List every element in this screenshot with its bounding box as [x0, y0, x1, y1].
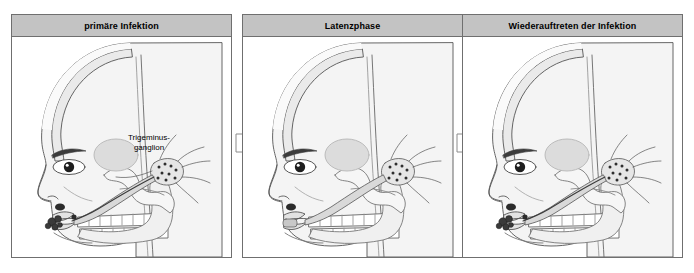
- head-diagram-latency: [243, 37, 462, 257]
- ganglion-label-line-1: Trigeminus-: [116, 133, 182, 143]
- eye-pupil: [515, 162, 525, 172]
- orbital-cavity: [545, 139, 589, 171]
- panel-recurrent-infection: Wiederauftreten der Infektion: [462, 14, 683, 258]
- ganglion-label-line-2: ganglion: [116, 143, 182, 153]
- panel-title-latency-phase: Latenzphase: [325, 21, 381, 31]
- panel-title-primary-infection: primäre Infektion: [84, 21, 159, 31]
- nerve-ending-marker: [283, 219, 297, 227]
- nerve-ending-dot: [522, 214, 527, 219]
- nerve-ending-dot: [71, 214, 76, 219]
- trigeminal-ganglion: [150, 159, 183, 186]
- trigeminal-ganglion: [601, 159, 634, 186]
- eye-highlight: [297, 164, 300, 167]
- panel-body-primary-infection: Trigeminus- ganglion: [12, 37, 231, 257]
- panel-title-recurrent-infection: Wiederauftreten der Infektion: [509, 21, 637, 31]
- eye-pupil: [64, 162, 74, 172]
- panel-header-recurrent-infection: Wiederauftreten der Infektion: [463, 15, 682, 37]
- nostril-lesion: [55, 203, 65, 210]
- eye-highlight: [517, 164, 520, 167]
- trigeminal-ganglion-label: Trigeminus- ganglion: [116, 133, 182, 152]
- panel-primary-infection: primäre Infektion: [11, 14, 232, 258]
- eye-pupil: [295, 162, 305, 172]
- trigeminal-ganglion: [381, 159, 414, 186]
- nostril-lesion: [286, 203, 296, 210]
- head-diagram-recurrence: [463, 37, 682, 257]
- nostril-lesion: [506, 203, 516, 210]
- panel-body-recurrent-infection: [463, 37, 682, 257]
- panel-header-primary-infection: primäre Infektion: [12, 15, 231, 37]
- orbital-cavity: [325, 139, 369, 171]
- panel-header-latency-phase: Latenzphase: [243, 15, 462, 37]
- herpes-infection-cycle-figure: primäre Infektion: [0, 0, 694, 273]
- panel-body-latency-phase: [243, 37, 462, 257]
- eye-highlight: [66, 164, 69, 167]
- panel-latency-phase: Latenzphase: [242, 14, 463, 258]
